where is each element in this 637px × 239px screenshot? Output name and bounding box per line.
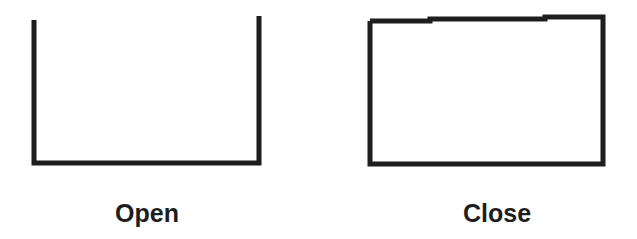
open-shape [34,16,259,163]
close-label: Close [437,199,557,228]
close-shape [370,17,603,164]
open-label: Open [87,199,207,228]
